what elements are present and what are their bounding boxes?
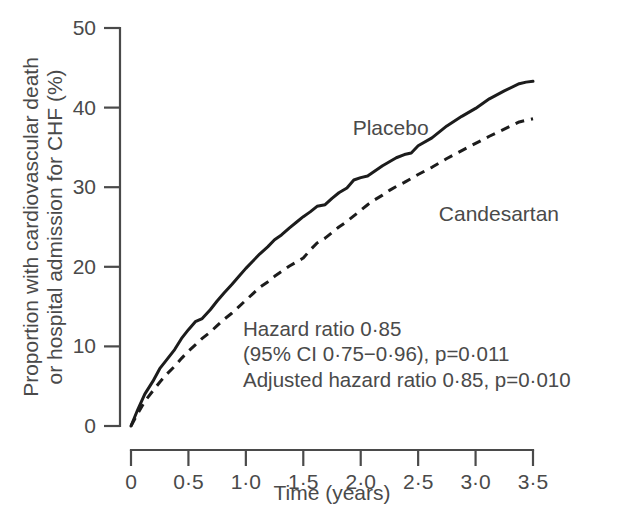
- series-label-placebo: Placebo: [353, 116, 429, 139]
- x-axis-tick-label: 1·0: [231, 470, 261, 493]
- y-axis-title-line2: or hospital admission for CHF (%): [43, 69, 66, 384]
- y-axis-tick-label: 40: [73, 96, 96, 119]
- y-axis-tick-label: 30: [73, 175, 96, 198]
- y-axis-title-line1: Proportion with cardiovascular death: [19, 57, 42, 397]
- x-axis-tick-label: 3·0: [460, 470, 490, 493]
- x-axis-tick-label: 3·5: [518, 470, 548, 493]
- y-axis-tick-label: 20: [73, 255, 96, 278]
- x-tick-group: [131, 450, 533, 466]
- chart-svg: 01020304050 00·51·01·52·02·53·03·5 Place…: [0, 0, 642, 531]
- x-axis-tick-label: 0: [125, 470, 137, 493]
- x-axis-title: Time (years): [273, 481, 390, 504]
- y-tick-label-group: 01020304050: [73, 16, 96, 437]
- annotation-confidence-interval: (95% CI 0·75−0·96), p=0·011: [243, 342, 509, 365]
- y-axis-tick-label: 50: [73, 16, 96, 39]
- x-axis-tick-label: 2·5: [403, 470, 433, 493]
- series-label-candesartan: Candesartan: [439, 202, 559, 225]
- y-tick-group: [104, 108, 120, 347]
- x-axis-tick-label: 0·5: [173, 470, 203, 493]
- annotation-hazard-ratio: Hazard ratio 0·85: [243, 317, 401, 340]
- chart-figure: 01020304050 00·51·01·52·02·53·03·5 Place…: [0, 0, 642, 531]
- y-axis-tick-label: 10: [73, 334, 96, 357]
- annotation-adjusted-hazard-ratio: Adjusted hazard ratio 0·85, p=0·010: [243, 368, 571, 391]
- y-axis-tick-label: 0: [84, 414, 96, 437]
